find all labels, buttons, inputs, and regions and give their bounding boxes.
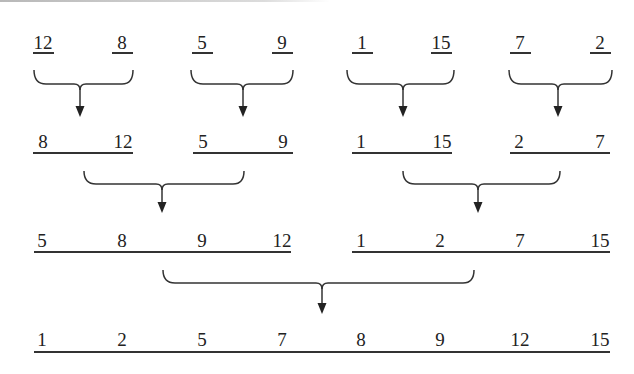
underline xyxy=(34,351,610,353)
brace-arrow xyxy=(347,70,454,117)
underline xyxy=(33,52,54,54)
underline xyxy=(193,152,293,154)
array-element: 7 xyxy=(595,132,605,152)
underline xyxy=(590,52,611,54)
brace-arrow xyxy=(34,70,133,117)
array-element: 7 xyxy=(515,231,525,251)
array-element: 12 xyxy=(114,132,133,152)
array-element: 15 xyxy=(591,330,610,350)
array-element: 5 xyxy=(37,231,47,251)
array-element: 5 xyxy=(197,330,207,350)
array-element: 1 xyxy=(356,231,366,251)
array-element: 1 xyxy=(356,132,366,152)
array-element: 2 xyxy=(595,33,605,53)
array-element: 5 xyxy=(198,132,208,152)
array-element: 2 xyxy=(117,330,127,350)
underline xyxy=(510,52,531,54)
underline xyxy=(431,52,452,54)
array-element: 7 xyxy=(515,33,525,53)
array-element: 8 xyxy=(117,231,127,251)
array-element: 2 xyxy=(435,231,445,251)
brace-arrow xyxy=(509,70,612,117)
array-element: 9 xyxy=(277,33,287,53)
brace-arrow xyxy=(163,270,474,314)
array-element: 8 xyxy=(356,330,366,350)
array-element: 7 xyxy=(277,330,287,350)
brace-arrow xyxy=(191,70,293,117)
underline xyxy=(33,152,133,154)
underline xyxy=(112,52,133,54)
array-element: 15 xyxy=(591,231,610,251)
array-element: 9 xyxy=(435,330,445,350)
array-element: 2 xyxy=(514,132,524,152)
array-element: 1 xyxy=(357,33,367,53)
underline xyxy=(352,251,610,253)
underline xyxy=(34,251,291,253)
array-element: 8 xyxy=(117,33,127,53)
array-element: 9 xyxy=(197,231,207,251)
array-element: 5 xyxy=(197,33,207,53)
brace-arrow xyxy=(84,171,244,213)
underline xyxy=(352,52,373,54)
array-element: 9 xyxy=(278,132,288,152)
underline xyxy=(510,152,610,154)
array-element: 12 xyxy=(511,330,530,350)
array-element: 15 xyxy=(433,132,452,152)
array-element: 1 xyxy=(37,330,47,350)
array-element: 12 xyxy=(34,33,53,53)
underline xyxy=(192,52,213,54)
array-element: 15 xyxy=(432,33,451,53)
underline xyxy=(272,52,293,54)
merge-braces xyxy=(0,0,634,374)
array-element: 12 xyxy=(273,231,292,251)
brace-arrow xyxy=(403,171,560,213)
underline xyxy=(352,152,452,154)
array-element: 8 xyxy=(38,132,48,152)
